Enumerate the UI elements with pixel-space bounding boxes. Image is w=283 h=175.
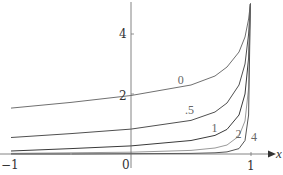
y-tick-label-2: 2 bbox=[119, 89, 127, 103]
y-tick-label-4: 4 bbox=[119, 27, 127, 41]
x-axis-label: x bbox=[275, 146, 282, 161]
x-axis-arrow-icon bbox=[268, 151, 276, 158]
curve-label-half: .5 bbox=[185, 103, 194, 117]
curve-label-2: 2 bbox=[235, 127, 241, 141]
x-tick-label-0: 0 bbox=[122, 158, 130, 172]
curve-label-1: 1 bbox=[211, 121, 217, 135]
curve-label-0: 0 bbox=[178, 73, 184, 87]
x-tick-label-1: 1 bbox=[247, 159, 255, 173]
curve-label-4: 4 bbox=[251, 130, 257, 144]
chart: 4 2 −1 0 1 x 0.5124 bbox=[0, 0, 283, 175]
x-tick-label-neg1: −1 bbox=[1, 158, 19, 172]
curve-labels-group: 0.5124 bbox=[178, 73, 257, 144]
